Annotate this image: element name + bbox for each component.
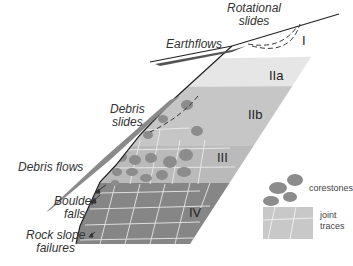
debris-flows-label: Debris flows bbox=[18, 161, 83, 174]
zone-IIb bbox=[0, 86, 352, 146]
zone-label-III: III bbox=[217, 150, 228, 165]
legend-joint-traces-label: joint traces bbox=[320, 210, 345, 232]
zone-label-IV: IV bbox=[189, 205, 201, 220]
zone-label-IIa: IIa bbox=[269, 68, 283, 83]
zone-label-IIb: IIb bbox=[248, 107, 262, 122]
zone-label-I: I bbox=[302, 33, 306, 48]
debris-slides-label: Debris slides bbox=[110, 103, 145, 129]
legend-corestones-label: corestones bbox=[309, 183, 353, 194]
rock-slope-failures-label: Rock slope failures bbox=[26, 229, 85, 255]
rotational-slides-label: Rotational slides bbox=[227, 2, 281, 28]
joint-traces-swatch bbox=[263, 207, 313, 239]
boulder-falls-label: Boulder falls bbox=[54, 195, 95, 221]
earthflows-label: Earthflows bbox=[166, 38, 222, 51]
